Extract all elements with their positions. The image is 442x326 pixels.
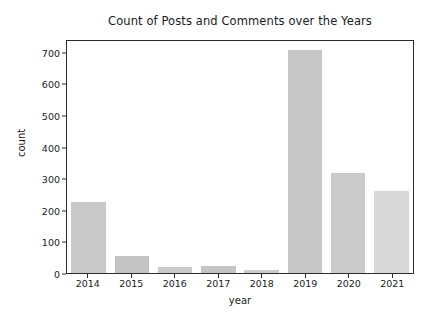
- bar-2019[interactable]: [288, 50, 323, 273]
- plot-area: [66, 40, 414, 274]
- y-tick-label: 700: [28, 47, 60, 58]
- x-axis-title: year: [66, 295, 414, 306]
- y-tick-label: 100: [28, 237, 60, 248]
- chart-title: Count of Posts and Comments over the Yea…: [66, 14, 414, 28]
- y-tick-label: 0: [28, 269, 60, 280]
- x-tick-label: 2017: [197, 278, 241, 289]
- x-tick-label: 2018: [240, 278, 284, 289]
- bar-slot: [154, 41, 197, 273]
- bar-2017[interactable]: [201, 266, 236, 273]
- bar-slot: [370, 41, 413, 273]
- bar-slot: [110, 41, 153, 273]
- y-tick-label: 400: [28, 142, 60, 153]
- bar-slot: [67, 41, 110, 273]
- x-tick-label: 2020: [327, 278, 371, 289]
- y-tick-label: 500: [28, 110, 60, 121]
- bar-2021[interactable]: [374, 191, 409, 273]
- bar-2018[interactable]: [244, 270, 279, 273]
- bar-slot: [197, 41, 240, 273]
- x-tick-label: 2021: [371, 278, 415, 289]
- x-axis-tick-labels: 20142015201620172018201920202021: [66, 278, 414, 289]
- bar-2014[interactable]: [71, 202, 106, 273]
- y-axis-title: count: [16, 129, 27, 157]
- y-tick-label: 300: [28, 174, 60, 185]
- bar-2016[interactable]: [158, 267, 193, 273]
- bar-slot: [283, 41, 326, 273]
- bars-layer: [67, 41, 413, 273]
- y-tick-label: 200: [28, 205, 60, 216]
- x-tick-label: 2019: [284, 278, 328, 289]
- bar-slot: [240, 41, 283, 273]
- y-tick-label: 600: [28, 79, 60, 90]
- bar-2020[interactable]: [331, 173, 366, 273]
- x-tick-label: 2015: [110, 278, 154, 289]
- chart-figure: Count of Posts and Comments over the Yea…: [0, 0, 442, 326]
- x-tick-label: 2016: [153, 278, 197, 289]
- x-tick-label: 2014: [66, 278, 110, 289]
- bar-slot: [327, 41, 370, 273]
- bar-2015[interactable]: [115, 256, 150, 273]
